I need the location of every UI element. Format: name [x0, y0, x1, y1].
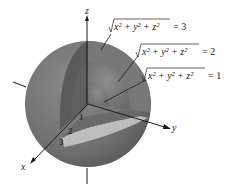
y-axis-arrowhead [163, 124, 171, 129]
radius-label-3: 3 [59, 137, 64, 147]
x-axis-label: x [20, 161, 26, 172]
y-axis-label: y [171, 122, 177, 133]
equation-r2-lhs: x² + y² + z² [141, 46, 188, 57]
radius-label-1: 1 [79, 112, 84, 122]
equation-r1-rhs: = 1 [208, 70, 221, 81]
equation-r3-lhs: x² + y² + z² [113, 21, 160, 32]
equation-r1: x² + y² + z² = 1 [142, 68, 221, 81]
equation-r3-rhs: = 3 [173, 21, 186, 32]
nested-spheres-diagram: z y x 1 2 3 x² + y² + z² = 3 x² + y² + z… [0, 0, 237, 191]
z-axis-label: z [84, 5, 89, 16]
equation-r3: x² + y² + z² = 3 [109, 19, 186, 32]
radius-label-2: 2 [68, 126, 73, 136]
x-axis-back [13, 82, 26, 87]
equation-r1-lhs: x² + y² + z² [147, 70, 194, 81]
equation-r2-rhs: = 2 [202, 46, 215, 57]
x-axis-arrowhead [30, 157, 36, 164]
equation-r2: x² + y² + z² = 2 [136, 44, 215, 57]
